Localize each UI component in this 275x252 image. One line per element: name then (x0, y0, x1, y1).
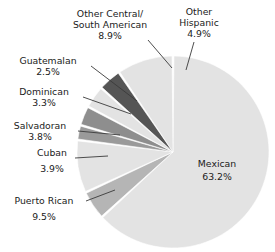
slice-label-puerto-rican: Puerto Rican 9.5% (15, 195, 74, 222)
label-other-hispanic-line1: Other (186, 6, 213, 17)
label-cuban-percent: 3.9% (40, 163, 64, 174)
label-other-hispanic-line2: Hispanic (179, 17, 219, 28)
label-other-central-south-american-line2: South American (73, 19, 147, 30)
slice-label-guatemalan: Guatemalan 2.5% (19, 55, 76, 77)
label-dominican: Dominican (19, 86, 69, 97)
label-cuban: Cuban (37, 147, 67, 158)
pie-chart-container: Other Central/ South American 8.9% Other… (0, 0, 275, 252)
slice-label-dominican: Dominican 3.3% (19, 86, 69, 108)
slice-label-salvadoran: Salvadoran 3.8% (14, 120, 66, 142)
slice-label-cuban: Cuban 3.9% (37, 147, 67, 174)
slice-label-other-central-south-american: Other Central/ South American 8.9% (73, 8, 147, 41)
label-dominican-percent: 3.3% (32, 97, 56, 108)
label-guatemalan: Guatemalan (19, 55, 76, 66)
label-salvadoran-percent: 3.8% (28, 131, 52, 142)
label-mexican-percent: 63.2% (202, 171, 232, 182)
label-salvadoran: Salvadoran (14, 120, 66, 131)
label-other-hispanic-percent: 4.9% (187, 28, 211, 39)
label-mexican: Mexican (198, 158, 236, 169)
label-other-central-south-american-percent: 8.9% (98, 30, 122, 41)
pie-slice-group (77, 56, 269, 248)
label-puerto-rican-percent: 9.5% (32, 211, 56, 222)
label-puerto-rican: Puerto Rican (15, 195, 74, 206)
label-other-central-south-american-line1: Other Central/ (77, 8, 144, 19)
label-guatemalan-percent: 2.5% (36, 66, 60, 77)
hispanic-origin-pie-chart: Other Central/ South American 8.9% Other… (0, 0, 275, 252)
slice-label-other-hispanic: Other Hispanic 4.9% (179, 6, 219, 39)
